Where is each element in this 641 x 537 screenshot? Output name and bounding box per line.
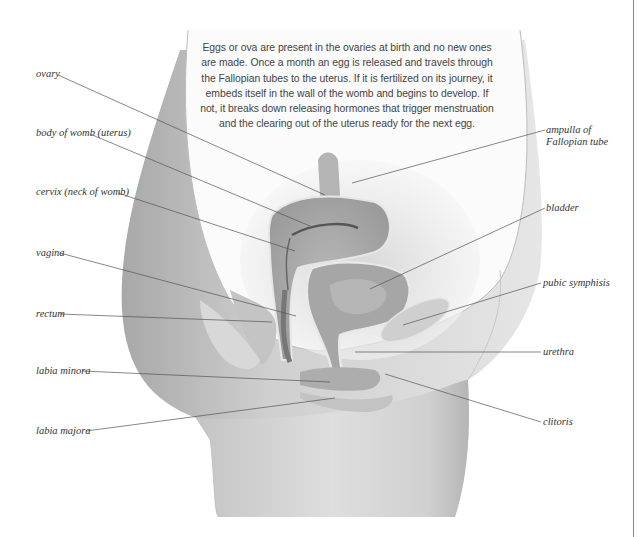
- label-urethra: urethra: [543, 346, 574, 358]
- label-ampulla: ampulla of Fallopian tube: [546, 124, 608, 148]
- anatomy-diagram: Eggs or ova are present in the ovaries a…: [0, 0, 641, 537]
- label-body-of-womb: body of womb (uterus): [36, 127, 131, 139]
- label-rectum: rectum: [36, 308, 65, 320]
- page-edge-divider: [633, 0, 634, 537]
- label-clitoris: clitoris: [543, 416, 573, 428]
- label-ampulla-line1: ampulla of: [546, 124, 608, 136]
- label-vagina: vagina: [36, 247, 65, 259]
- description-paragraph: Eggs or ova are present in the ovaries a…: [200, 40, 494, 132]
- label-pubic-symphysis: pubic symphisis: [543, 277, 610, 289]
- label-bladder: bladder: [546, 202, 579, 214]
- label-ovary: ovary: [36, 68, 60, 80]
- label-labia-minora: labia minora: [36, 365, 91, 377]
- label-ampulla-line2: Fallopian tube: [546, 136, 608, 148]
- label-cervix: cervix (neck of womb): [36, 186, 129, 198]
- label-labia-majora: labia majora: [36, 425, 91, 437]
